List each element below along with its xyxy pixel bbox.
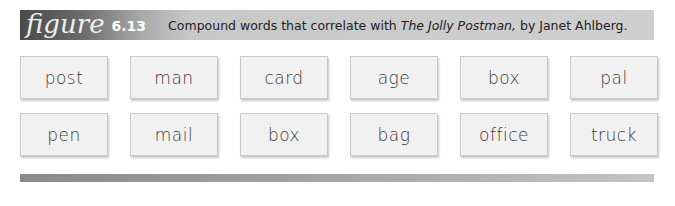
figure-label: figure [26,9,105,39]
word-card: man [130,56,218,99]
caption-text-after: by Janet Ahlberg. [516,18,628,33]
caption-text-before: Compound words that correlate with [168,18,401,33]
word-card: box [460,56,548,99]
word-card: card [240,56,328,99]
word-card: age [350,56,438,99]
bottom-divider [20,174,654,182]
word-card: office [460,113,548,156]
caption-book-title: The Jolly Postman, [401,18,516,33]
figure-number: 6.13 [112,18,147,34]
word-card: bag [350,113,438,156]
word-card: mail [130,113,218,156]
figure-caption: Compound words that correlate with The J… [168,18,627,33]
word-card: box [240,113,328,156]
figure-header: figure 6.13 Compound words that correlat… [20,10,654,40]
word-card: pen [20,113,108,156]
word-card: pal [570,56,658,99]
word-card: post [20,56,108,99]
word-card: truck [570,113,658,156]
